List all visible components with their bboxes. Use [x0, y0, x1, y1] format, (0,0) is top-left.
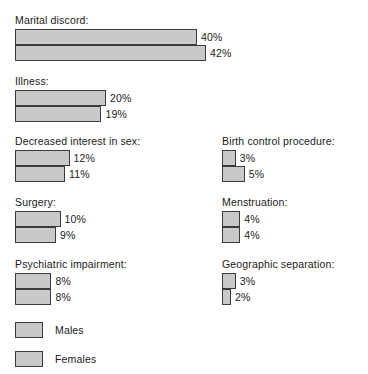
bar-value-females: 5%: [249, 168, 264, 180]
bar-row-males: 40%: [15, 29, 232, 45]
group-label: Decreased interest in sex:: [15, 135, 140, 147]
bar-group-illness: Illness: 20% 19%: [15, 75, 131, 122]
bar-males: [15, 211, 61, 227]
bar-group-psychiatric-impairment: Psychiatric impairment: 8% 8%: [15, 258, 127, 305]
bar-value-males: 8%: [55, 275, 70, 287]
bar-row-males: 10%: [15, 211, 86, 227]
bar-group-birth-control-procedure: Birth control procedure: 3% 5%: [222, 135, 335, 182]
chart-legend: Males Females: [15, 322, 96, 374]
bar-value-males: 20%: [110, 92, 131, 104]
bar-males: [15, 29, 197, 45]
bar-value-males: 10%: [65, 213, 86, 225]
bar-females: [222, 166, 245, 182]
bar-females: [15, 106, 101, 122]
bar-row-females: 8%: [15, 289, 127, 305]
bar-row-females: 2%: [222, 289, 334, 305]
bar-value-females: 9%: [60, 229, 75, 241]
bar-value-females: 42%: [210, 47, 231, 59]
group-label: Menstruation:: [222, 196, 288, 208]
bar-row-males: 3%: [222, 273, 334, 289]
group-label: Marital discord:: [15, 14, 232, 26]
bar-value-males: 4%: [244, 213, 259, 225]
legend-swatch-icon: [15, 322, 43, 338]
bar-males: [222, 150, 236, 166]
bar-row-males: 12%: [15, 150, 140, 166]
bar-value-males: 3%: [240, 275, 255, 287]
bar-value-males: 3%: [240, 152, 255, 164]
bar-group-geographic-separation: Geographic separation: 3% 2%: [222, 258, 334, 305]
bar-group-decreased-interest-in-sex: Decreased interest in sex: 12% 11%: [15, 135, 140, 182]
legend-label: Females: [55, 353, 96, 365]
bar-females: [15, 45, 206, 61]
bar-group-menstruation: Menstruation: 4% 4%: [222, 196, 288, 243]
bar-row-females: 4%: [222, 227, 288, 243]
bar-row-males: 8%: [15, 273, 127, 289]
legend-entry-males: Males: [15, 322, 96, 338]
bar-group-marital-discord: Marital discord: 40% 42%: [15, 14, 232, 61]
bar-row-males: 3%: [222, 150, 335, 166]
group-label: Geographic separation:: [222, 258, 334, 270]
bar-females: [15, 166, 65, 182]
bar-value-females: 4%: [244, 229, 259, 241]
legend-entry-females: Females: [15, 351, 96, 367]
group-label: Birth control procedure:: [222, 135, 335, 147]
bar-row-females: 42%: [15, 45, 232, 61]
bar-males: [222, 211, 240, 227]
bar-row-females: 5%: [222, 166, 335, 182]
bar-group-surgery: Surgery: 10% 9%: [15, 196, 86, 243]
group-label: Surgery:: [15, 196, 86, 208]
group-label: Illness:: [15, 75, 131, 87]
bar-row-females: 19%: [15, 106, 131, 122]
paired-bar-chart: Marital discord: 40% 42% Illness: 20% 19…: [0, 0, 368, 374]
bar-row-males: 20%: [15, 90, 131, 106]
legend-swatch-icon: [15, 351, 43, 367]
bar-females: [222, 227, 240, 243]
bar-value-females: 19%: [105, 108, 126, 120]
bar-row-females: 11%: [15, 166, 140, 182]
bar-males: [15, 150, 70, 166]
group-label: Psychiatric impairment:: [15, 258, 127, 270]
bar-value-males: 12%: [74, 152, 95, 164]
bar-males: [15, 273, 51, 289]
bar-females: [15, 227, 56, 243]
bar-males: [222, 273, 236, 289]
bar-males: [15, 90, 106, 106]
bar-females: [15, 289, 51, 305]
bar-value-females: 11%: [69, 168, 90, 180]
bar-row-males: 4%: [222, 211, 288, 227]
bar-value-females: 8%: [55, 291, 70, 303]
bar-females: [222, 289, 231, 305]
legend-label: Males: [55, 324, 84, 336]
bar-value-females: 2%: [235, 291, 250, 303]
bar-value-males: 40%: [201, 31, 222, 43]
bar-row-females: 9%: [15, 227, 86, 243]
